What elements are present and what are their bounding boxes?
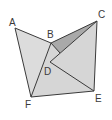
geometry-diagram: A B C D E F bbox=[0, 0, 112, 120]
label-b: B bbox=[47, 29, 54, 40]
label-c: C bbox=[98, 9, 105, 20]
label-f: F bbox=[25, 99, 31, 110]
label-d: D bbox=[44, 66, 51, 77]
label-e: E bbox=[95, 93, 102, 104]
label-a: A bbox=[9, 17, 16, 28]
